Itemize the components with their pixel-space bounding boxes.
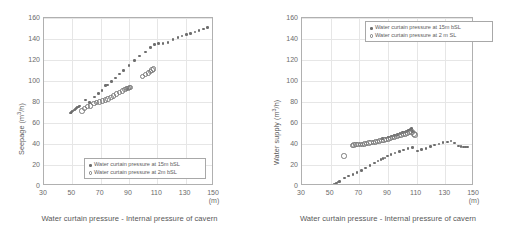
data-point-series-0	[329, 184, 332, 185]
legend-marker-open-circle-icon	[370, 34, 373, 37]
x-axis-unit-left: (m)	[209, 197, 220, 204]
data-point-series-0	[78, 105, 81, 108]
x-tick-label: 90	[124, 189, 132, 196]
data-point-series-0	[347, 175, 350, 178]
y-tick-label: 80	[290, 98, 298, 105]
data-point-series-0	[194, 31, 197, 34]
gridline-horizontal	[44, 18, 212, 19]
data-point-series-0	[373, 162, 376, 165]
legend-marker-open-circle-icon	[89, 171, 92, 174]
legend-item[interactable]: Water curtain pressure at 15m bSL	[87, 161, 202, 169]
data-point-series-0	[384, 157, 387, 160]
y-tick-label: 100	[286, 77, 298, 84]
gridline-vertical	[331, 18, 332, 184]
y-tick-label: 140	[286, 35, 298, 42]
data-point-series-0	[450, 140, 453, 143]
gridline-horizontal	[44, 81, 212, 82]
gridline-horizontal	[44, 123, 212, 124]
data-point-series-0	[466, 146, 469, 149]
data-point-series-0	[138, 55, 141, 58]
x-tick-label: 70	[96, 189, 104, 196]
data-point-series-0	[386, 155, 389, 158]
y-axis-title-left: Seepage (m3/h)	[16, 103, 26, 155]
data-point-series-0	[377, 160, 380, 163]
data-point-series-0	[185, 33, 188, 36]
y-tick-label: 80	[32, 98, 40, 105]
gridline-horizontal	[44, 39, 212, 40]
x-tick-label: 150	[207, 189, 219, 196]
x-tick-label: 50	[67, 189, 75, 196]
y-tick-label: 20	[290, 161, 298, 168]
y-tick-label: 160	[286, 14, 298, 21]
gridline-vertical	[72, 18, 73, 184]
legend-item[interactable]: Water curtain pressure at 2m bSL	[87, 169, 202, 177]
data-point-series-0	[327, 184, 330, 185]
x-tick-label: 110	[151, 189, 162, 196]
gridline-vertical	[388, 18, 389, 184]
y-axis-ticks-left: 020406080100120140160	[26, 17, 40, 185]
data-point-series-0	[177, 36, 180, 39]
data-point-series-0	[133, 59, 136, 62]
data-point-series-0	[206, 26, 209, 29]
data-point-series-1	[341, 153, 346, 158]
x-tick-label: 130	[179, 189, 191, 196]
x-tick-label: 150	[467, 189, 479, 196]
y-tick-label: 140	[28, 35, 40, 42]
data-point-series-0	[338, 180, 341, 183]
data-point-series-0	[433, 144, 436, 147]
data-point-series-0	[390, 153, 393, 156]
data-point-series-0	[101, 89, 104, 92]
data-point-series-0	[202, 28, 205, 31]
data-point-series-0	[364, 167, 367, 170]
y-tick-label: 60	[290, 119, 298, 126]
data-point-series-0	[181, 35, 184, 38]
x-axis-title-right: Water curtain pressure - Internal pressu…	[269, 214, 507, 223]
y-tick-label: 0	[294, 182, 298, 189]
y-tick-label: 120	[28, 56, 40, 63]
data-point-series-0	[93, 96, 96, 99]
data-point-series-0	[420, 148, 423, 151]
gridline-horizontal	[302, 165, 472, 166]
data-point-series-0	[189, 32, 192, 35]
y-tick-label: 60	[32, 119, 40, 126]
legend-left[interactable]: Water curtain pressure at 15m bSLWater c…	[84, 158, 206, 179]
data-point-series-0	[411, 146, 414, 149]
legend-item-label: Water curtain pressure at 15m bSL	[94, 161, 180, 169]
figure-two-panel-scatter: Seepage (m3/h) 020406080100120140160 305…	[0, 0, 515, 236]
legend-item[interactable]: Water curtain pressure at 15m bSL	[368, 24, 489, 32]
legend-right[interactable]: Water curtain pressure at 15m bSLWater c…	[365, 21, 493, 42]
data-point-series-0	[167, 41, 170, 44]
y-tick-label: 160	[28, 14, 40, 21]
data-point-series-0	[149, 46, 152, 49]
gridline-horizontal	[302, 123, 472, 124]
legend-item-label: Water curtain pressure at 15m bSL	[375, 24, 461, 32]
data-point-series-0	[398, 150, 401, 153]
x-tick-label: 50	[326, 189, 334, 196]
data-point-series-1	[412, 132, 417, 137]
legend-item[interactable]: Water curtain pressure at 2 m SL	[368, 32, 489, 40]
data-point-series-0	[97, 92, 100, 95]
gridline-horizontal	[44, 102, 212, 103]
plot-area-right	[301, 17, 473, 185]
data-point-series-0	[328, 184, 331, 185]
y-axis-title-right: Water supply (m3/h)	[271, 100, 281, 165]
gridline-horizontal	[302, 144, 472, 145]
gridline-horizontal	[302, 60, 472, 61]
data-point-series-0	[360, 169, 363, 172]
data-point-series-0	[198, 29, 201, 32]
x-axis-title-left: Water curtain pressure - Internal pressu…	[12, 214, 247, 223]
gridline-vertical	[445, 18, 446, 184]
data-point-series-0	[114, 77, 117, 80]
x-tick-label: 30	[39, 189, 47, 196]
x-axis-unit-right: (m)	[469, 197, 480, 204]
data-point-series-0	[425, 147, 428, 150]
y-tick-label: 100	[28, 77, 40, 84]
chart-panel-seepage: Seepage (m3/h) 020406080100120140160 305…	[0, 0, 257, 236]
gridline-horizontal	[302, 102, 472, 103]
gridline-vertical	[417, 18, 418, 184]
data-point-series-1	[151, 66, 156, 71]
data-point-series-0	[153, 43, 156, 46]
data-point-series-0	[144, 51, 147, 54]
gridline-horizontal	[44, 144, 212, 145]
x-tick-label: 70	[354, 189, 362, 196]
